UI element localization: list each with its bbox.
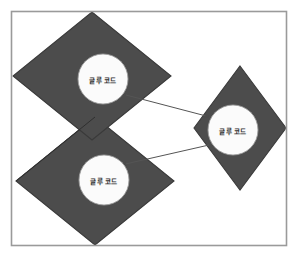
node-bottom-left-label: 글루 코드 — [90, 177, 117, 186]
node-right-label: 글루 코드 — [219, 127, 246, 136]
diagram-canvas: 글루 코드 글루 코드 글루 코드 — [0, 0, 298, 258]
node-top-left-badge[interactable]: 글루 코드 — [78, 54, 128, 104]
node-bottom-left-badge[interactable]: 글루 코드 — [79, 155, 129, 205]
node-top-left-label: 글루 코드 — [89, 76, 116, 85]
glue-code-diagram: 글루 코드 글루 코드 글루 코드 — [0, 0, 298, 258]
node-right-badge[interactable]: 글루 코드 — [208, 105, 258, 155]
